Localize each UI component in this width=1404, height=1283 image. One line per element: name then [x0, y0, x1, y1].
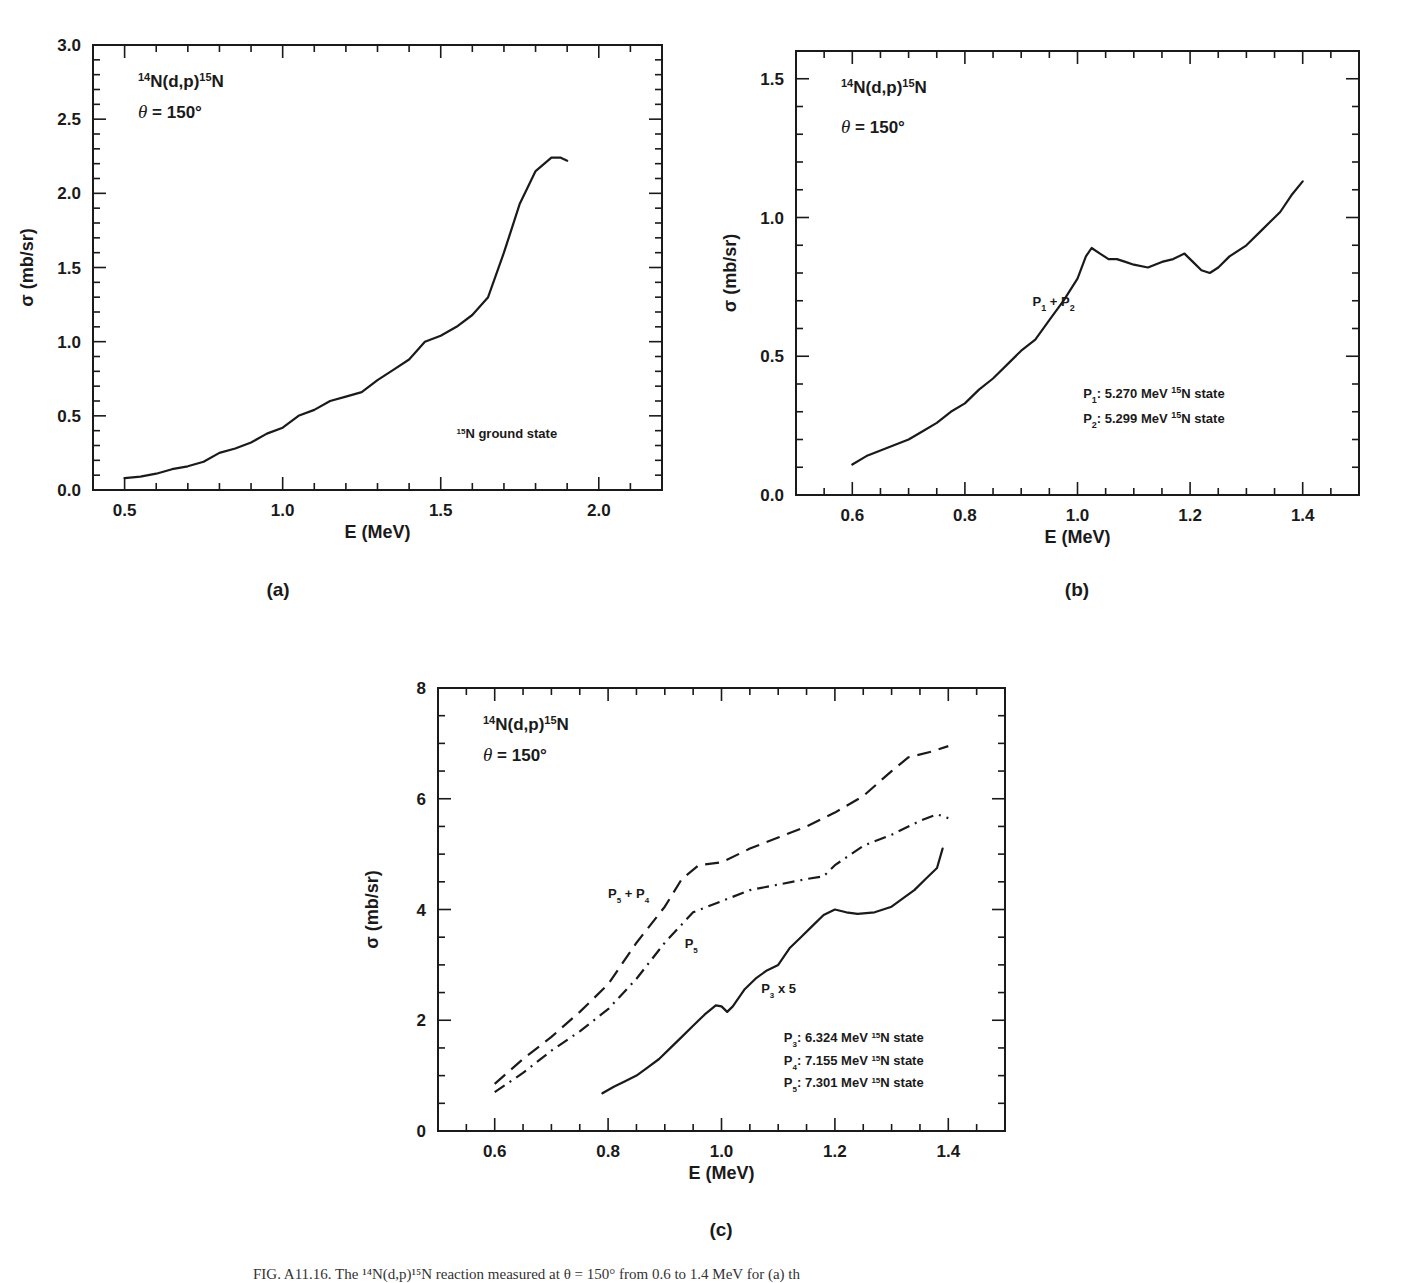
reaction-label: 14N(d,p)15N	[138, 71, 224, 91]
data-series-line	[852, 181, 1302, 464]
x-tick-label: 1.2	[1178, 506, 1202, 525]
y-tick-label: 0.5	[57, 407, 81, 426]
x-tick-label: 0.8	[596, 1142, 620, 1161]
x-tick-label: 0.5	[113, 501, 137, 520]
data-series-line	[495, 814, 949, 1092]
y-tick-label: 4	[417, 901, 427, 920]
x-tick-label: 0.6	[840, 506, 864, 525]
panel-label: (c)	[709, 1219, 732, 1240]
panel-label: (a)	[266, 579, 289, 600]
y-tick-label: 1.5	[760, 70, 784, 89]
annotation-label: P2: 5.299 MeV 15N state	[1083, 410, 1225, 430]
annotation-label: P5	[685, 936, 699, 955]
x-tick-label: 1.4	[936, 1142, 960, 1161]
angle-label: θ = 150°	[138, 101, 202, 122]
y-axis-title: σ (mb/sr)	[720, 234, 740, 312]
y-tick-label: 2	[417, 1011, 426, 1030]
y-tick-label: 2.5	[57, 110, 81, 129]
x-tick-label: 1.4	[1291, 506, 1315, 525]
y-tick-label: 2.0	[57, 184, 81, 203]
y-tick-label: 1.5	[57, 259, 81, 278]
x-tick-label: 0.8	[953, 506, 977, 525]
y-axis-title: σ (mb/sr)	[17, 228, 37, 306]
chart-panel-a: 0.51.01.52.00.00.51.01.52.02.53.0E (MeV)…	[17, 36, 662, 600]
y-tick-label: 3.0	[57, 36, 81, 55]
annotation-label: P3 x 5	[761, 981, 796, 1000]
x-tick-label: 1.0	[271, 501, 295, 520]
panel-label: (b)	[1065, 579, 1089, 600]
angle-label: θ = 150°	[483, 744, 547, 765]
y-tick-label: 6	[417, 790, 426, 809]
y-tick-label: 0	[417, 1122, 426, 1141]
y-axis-title: σ (mb/sr)	[362, 870, 382, 948]
x-tick-label: 2.0	[587, 501, 611, 520]
annotation-label: P5 + P4	[608, 886, 650, 905]
y-tick-label: 1.0	[760, 209, 784, 228]
x-axis-title: E (MeV)	[1044, 527, 1110, 547]
figure-caption: FIG. A11.16. The ¹⁴N(d,p)¹⁵N reaction me…	[253, 1266, 800, 1283]
x-tick-label: 1.0	[710, 1142, 734, 1161]
x-tick-label: 1.5	[429, 501, 453, 520]
y-tick-label: 0.5	[760, 347, 784, 366]
annotation-label: P5: 7.301 MeV 15N state	[784, 1075, 924, 1094]
reaction-label: 14N(d,p)15N	[841, 77, 927, 97]
x-axis-title: E (MeV)	[344, 522, 410, 542]
x-axis-title: E (MeV)	[688, 1163, 754, 1183]
y-tick-label: 8	[417, 679, 426, 698]
y-tick-label: 0.0	[760, 486, 784, 505]
annotation-label: 15N ground state	[457, 426, 558, 441]
annotation-label: P3: 6.324 MeV 15N state	[784, 1030, 924, 1049]
x-tick-label: 0.6	[483, 1142, 507, 1161]
annotation-label: P1: 5.270 MeV 15N state	[1083, 385, 1225, 405]
annotation-label: P1 + P2	[1032, 294, 1074, 313]
y-tick-label: 0.0	[57, 481, 81, 500]
annotation-label: P4: 7.155 MeV 15N state	[784, 1053, 924, 1072]
x-tick-label: 1.2	[823, 1142, 847, 1161]
y-tick-label: 1.0	[57, 333, 81, 352]
reaction-label: 14N(d,p)15N	[483, 714, 569, 734]
x-tick-label: 1.0	[1066, 506, 1090, 525]
angle-label: θ = 150°	[841, 116, 905, 137]
chart-panel-b: 0.60.81.01.21.40.00.51.01.5E (MeV)σ (mb/…	[720, 51, 1359, 600]
chart-panel-c: 0.60.81.01.21.402468E (MeV)σ (mb/sr)14N(…	[362, 679, 1005, 1240]
